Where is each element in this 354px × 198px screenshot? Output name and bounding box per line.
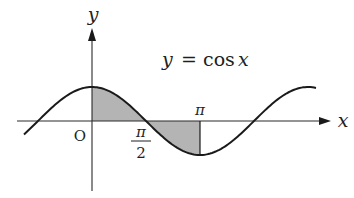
pi-over-2-tick-label: π 2 [131, 123, 151, 162]
origin-label: O [74, 127, 86, 145]
equation-equals: = [181, 48, 197, 70]
pi-over-2-denominator: 2 [136, 144, 146, 162]
pi-over-2-numerator: π [135, 123, 147, 141]
y-axis-arrow-icon [88, 28, 96, 41]
x-axis-arrow-icon [319, 117, 331, 125]
cosine-diagram: y x O π π 2 y = cos x [0, 0, 354, 198]
equation-argument: x [238, 48, 249, 70]
x-axis-label: x [338, 109, 349, 131]
y-axis-label: y [87, 3, 99, 25]
equation-lhs: y [161, 48, 173, 70]
pi-tick-label: π [194, 101, 206, 119]
equation-function: cos [203, 48, 235, 70]
equation-label: y = cos x [161, 48, 249, 70]
